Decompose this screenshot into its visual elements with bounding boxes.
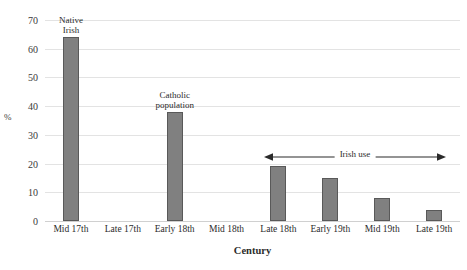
bar[interactable] <box>270 166 286 221</box>
x-axis-tick-label: Late 18th <box>260 224 296 234</box>
y-axis-tick-label: 20 <box>8 158 38 169</box>
bar[interactable] <box>374 198 390 221</box>
y-axis-tick-labels: 706050403020100 <box>0 20 38 221</box>
bar[interactable] <box>167 112 183 221</box>
bar-annotation-line: Native <box>59 15 83 25</box>
bar-annotation-line: population <box>155 100 194 110</box>
bar-annotation: Catholicpopulation <box>155 90 194 110</box>
y-axis-tick-label: 0 <box>8 216 38 227</box>
x-axis-tick-label: Mid 18th <box>209 224 244 234</box>
bar-slot <box>149 20 201 221</box>
x-axis-tick-label: Early 19th <box>310 224 350 234</box>
x-axis-tick-label: Mid 17th <box>53 224 88 234</box>
bar-slot <box>201 20 253 221</box>
bar-slot <box>45 20 97 221</box>
bar-slot <box>356 20 408 221</box>
bar-annotation: NativeIrish <box>59 15 83 35</box>
gridline <box>45 221 460 222</box>
irish-use-label: Irish use <box>335 149 376 159</box>
y-axis-tick-label: 10 <box>8 187 38 198</box>
bar-chart: The Gaelic and Catholic contexts in Irel… <box>0 0 467 270</box>
plot-area: NativeIrishCatholicpopulation <box>45 20 460 221</box>
x-axis-tick-label: Early 18th <box>155 224 195 234</box>
bar-slot <box>97 20 149 221</box>
bar-slot <box>304 20 356 221</box>
x-axis-tick-label: Mid 19th <box>365 224 400 234</box>
irish-use-arrow-annotation: Irish use <box>264 149 446 165</box>
x-axis-tick-label: Late 19th <box>416 224 452 234</box>
bar-annotation-line: Irish <box>59 25 83 35</box>
bar-slot <box>253 20 305 221</box>
bar-slot <box>408 20 460 221</box>
bar[interactable] <box>426 210 442 221</box>
x-axis-tick-labels: Mid 17thLate 17thEarly 18thMid 18thLate … <box>45 224 460 240</box>
bar[interactable] <box>322 178 338 221</box>
y-axis-tick-label: 60 <box>8 43 38 54</box>
x-axis-title: Century <box>45 245 460 256</box>
bar[interactable] <box>63 37 79 221</box>
y-axis-tick-label: 50 <box>8 72 38 83</box>
y-axis-tick-label: 40 <box>8 101 38 112</box>
chart-title: The Gaelic and Catholic contexts in Irel… <box>0 0 467 2</box>
y-axis-tick-label: 30 <box>8 129 38 140</box>
x-axis-tick-label: Late 17th <box>105 224 141 234</box>
y-axis-tick-label: 70 <box>8 15 38 26</box>
bar-annotation-line: Catholic <box>155 90 194 100</box>
